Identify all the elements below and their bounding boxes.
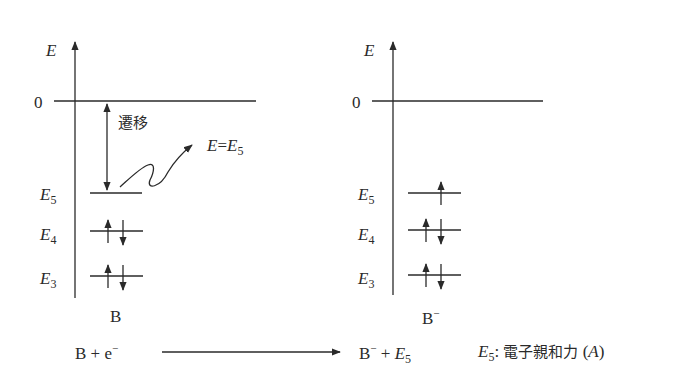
left-level-e5-label: E5 — [40, 186, 56, 206]
photon-wavy-arrow-icon — [120, 145, 192, 187]
energy-level-diagram — [0, 0, 684, 383]
photon-energy-label: E=E5 — [207, 137, 243, 157]
right-species-label: B− — [422, 308, 440, 327]
right-level-e3-label: E3 — [358, 270, 374, 290]
left-level-e3-label: E3 — [40, 270, 56, 290]
transition-label: 遷移 — [118, 116, 148, 131]
left-zero-label: 0 — [34, 94, 43, 111]
right-level-e4-label: E4 — [358, 226, 374, 246]
right-axis-label: E — [364, 42, 374, 59]
electron-affinity-note: E5: 電子親和力 (A) — [478, 343, 604, 363]
left-axis-label: E — [46, 42, 56, 59]
left-level-e4-label: E4 — [40, 226, 56, 246]
reactant-label: B + e− — [75, 343, 118, 362]
product-label: B− + E5 — [359, 343, 411, 365]
right-level-e5-label: E5 — [358, 186, 374, 206]
left-species-label: B — [110, 308, 121, 325]
right-zero-label: 0 — [352, 94, 361, 111]
